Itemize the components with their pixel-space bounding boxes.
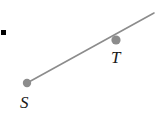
point-T-dot [111, 35, 120, 44]
point-T-label: T [111, 49, 120, 66]
ray-ST-line [27, 13, 154, 83]
point-S-label: S [20, 94, 29, 111]
geometry-figure: S T [0, 0, 160, 119]
point-S-dot [23, 79, 31, 87]
